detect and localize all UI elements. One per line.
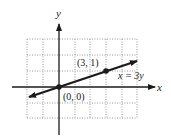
point-origin	[56, 84, 62, 90]
graph-line-neg	[29, 87, 59, 97]
y-axis-label: y	[55, 7, 61, 19]
point-label-origin: (0, 0)	[63, 91, 85, 103]
x-axis-label: x	[156, 81, 162, 93]
point-label-3-1: (3, 1)	[77, 57, 99, 69]
coordinate-graph: y x (3, 1) (0, 0) x = 3y	[0, 0, 171, 138]
point-3-1	[103, 68, 109, 74]
equation-label: x = 3y	[117, 70, 144, 81]
